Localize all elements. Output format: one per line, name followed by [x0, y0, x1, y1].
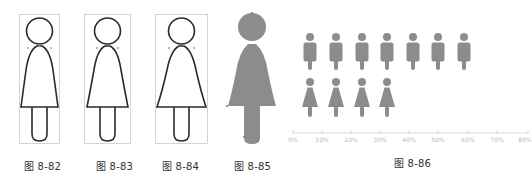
- figure-caption: 图 8-85: [234, 158, 271, 173]
- figure-caption: 图 8-84: [162, 158, 199, 173]
- female-outline-icon: [0, 0, 80, 183]
- x-tick-label: 30%: [373, 136, 386, 143]
- x-tick-label: 80%: [518, 136, 531, 143]
- x-tick-label: 70%: [490, 136, 503, 143]
- x-tick-label: 50%: [431, 136, 444, 143]
- figure-caption: 图 8-83: [96, 158, 133, 173]
- figure-8-86-pictogram-chart: 0% 10% 20% 30% 40% 50% 60% 70% 80% 图 8-8…: [290, 0, 532, 183]
- female-outline-icon: [78, 0, 158, 183]
- female-outline-icon: [150, 0, 230, 183]
- figure-8-82: 图 8-82: [0, 0, 80, 183]
- figure-8-84: 图 8-84: [150, 0, 230, 183]
- figure-8-85: 图 8-85: [222, 0, 282, 183]
- figure-caption: 图 8-82: [24, 158, 61, 173]
- x-tick-label: 0%: [288, 136, 298, 143]
- x-axis: [293, 130, 528, 133]
- figure-8-83: 图 8-83: [78, 0, 158, 183]
- female-icons-row: [302, 78, 395, 117]
- figure-caption: 图 8-86: [394, 155, 431, 170]
- x-tick-label: 10%: [315, 136, 328, 143]
- male-icons-row: [304, 33, 471, 70]
- x-tick-label: 20%: [344, 136, 357, 143]
- female-filled-icon: [222, 0, 282, 183]
- x-tick-label: 40%: [402, 136, 415, 143]
- x-tick-label: 60%: [461, 136, 474, 143]
